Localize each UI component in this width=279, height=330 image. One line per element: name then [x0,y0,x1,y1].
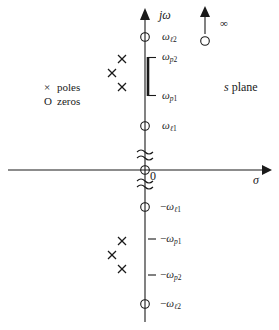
omega-subscript-index: 1 [177,205,181,214]
zero-icon: O [44,94,57,108]
infinity-label: ∞ [220,18,228,29]
omega-subscript-index: 2 [177,302,181,311]
omega-symbol: ω [166,297,174,309]
axis-label-omega-l1-negative: −ωℓ1 [160,201,181,214]
zero-at-infinity-group [200,6,210,45]
pole-cluster-lower [108,237,126,273]
legend: ×poles Ozeros [44,80,80,108]
real-axis-label: σ [253,174,259,186]
omega-symbol: ω [166,268,174,280]
pole-marker-upper-1 [118,55,126,63]
pole-marker-upper-2 [108,69,116,77]
real-axis-arrowhead [262,165,272,175]
pole-icon: × [44,80,57,94]
axis-label-omega-p1-positive: ωp1 [162,90,177,103]
s-plane-label: s plane [224,81,258,93]
axis-label-omega-p2-positive: ωp2 [162,51,177,64]
legend-row-zeros: Ozeros [44,94,80,108]
zero-marker-infinity [201,37,210,46]
omega-subscript-index: 2 [173,35,177,44]
pole-marker-lower-3 [118,265,126,273]
omega-symbol: ω [162,89,170,101]
axis-label-omega-l1-positive: ωℓ1 [162,120,177,133]
legend-label-zeros: zeros [57,95,80,107]
pole-marker-upper-3 [118,83,126,91]
infinity-arrowhead [200,6,210,17]
omega-symbol: ω [166,200,174,212]
pole-zero-diagram-svg [0,0,279,330]
omega-symbol: ω [162,119,170,131]
axis-label-omega-l2-positive: ωℓ2 [162,31,177,44]
omega-subscript-index: 2 [174,55,178,64]
pole-band-bracket-upper [148,57,156,96]
s-plane-label-text: plane [229,80,258,94]
real-axis-group [8,165,272,175]
legend-label-poles: poles [57,81,80,93]
imaginary-axis-arrowhead [140,8,150,20]
axis-label-omega-p2-negative: −ωp2 [160,269,181,282]
omega-symbol: ω [162,30,170,42]
omega-subscript-index: 2 [178,273,182,282]
pole-cluster-upper [108,55,126,91]
omega-symbol: ω [162,50,170,62]
pole-marker-lower-2 [108,251,116,259]
omega-subscript-index: 1 [173,124,177,133]
axis-label-omega-l2-negative: −ωℓ2 [160,298,181,311]
omega-symbol: ω [166,232,174,244]
s-plane-pole-zero-figure: jω σ 0 ∞ s plane ×poles Ozeros ωℓ2 ωp2 ω… [0,0,279,330]
omega-subscript-index: 1 [178,237,182,246]
imaginary-axis-label: jω [159,9,171,21]
omega-subscript-index: 1 [174,94,178,103]
pole-marker-lower-1 [118,237,126,245]
legend-row-poles: ×poles [44,80,80,94]
origin-label: 0 [150,170,156,182]
axis-label-omega-p1-negative: −ωp1 [160,233,181,246]
